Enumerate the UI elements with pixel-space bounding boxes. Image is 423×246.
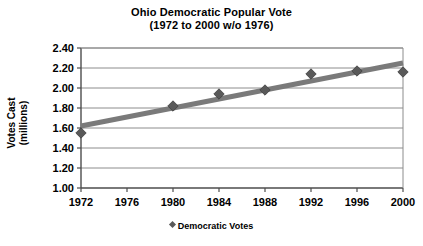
legend-label: Democratic Votes [178,221,253,231]
y-tick-label: 1.20 [53,162,74,174]
y-tick-label: 2.20 [53,62,74,74]
y-tick-label: 1.00 [53,182,74,194]
x-tick-label: 1980 [161,196,185,208]
x-tick-label: 2000 [391,196,415,208]
y-tick-label: 2.40 [53,42,74,54]
x-tick-label: 1972 [69,196,93,208]
x-tick-label: 1984 [207,196,232,208]
x-tick-label: 1992 [299,196,323,208]
x-tick-label: 1976 [115,196,139,208]
x-tick-label: 1988 [253,196,277,208]
x-tick-label: 1996 [345,196,369,208]
y-tick-label: 2.00 [53,82,74,94]
y-tick-label: 1.60 [53,122,74,134]
plot-area: 1.001.201.401.601.802.002.202.40 1972197… [0,0,423,246]
y-tick-labels: 1.001.201.401.601.802.002.202.40 [53,42,74,194]
data-markers [76,66,408,138]
y-tick-label: 1.40 [53,142,74,154]
legend-diamond-icon [169,221,176,228]
chart-legend: Democratic Votes [0,220,423,231]
chart-container: Ohio Democratic Popular Vote (1972 to 20… [0,0,423,246]
gridlines [81,48,403,168]
y-tick-label: 1.80 [53,102,74,114]
x-tick-labels: 19721976198019841988199219962000 [69,196,415,208]
